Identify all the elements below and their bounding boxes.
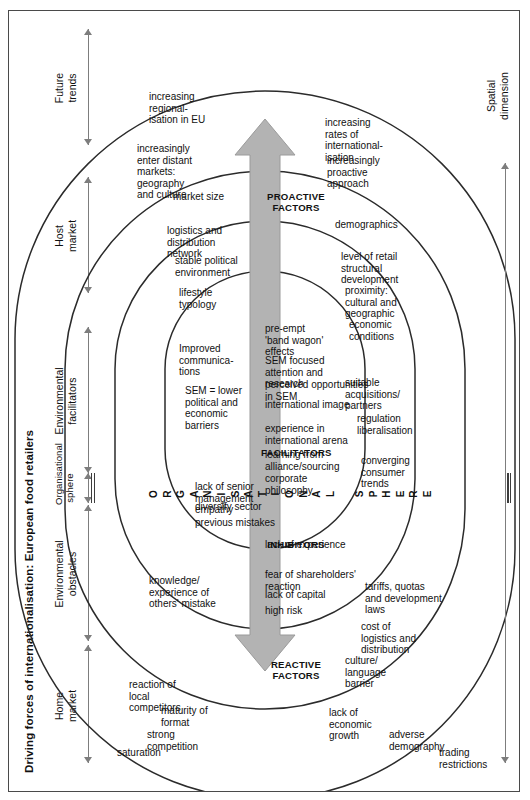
ring-item: corporate philosophy (265, 473, 355, 496)
ring-item: logistics and distribution network (167, 225, 267, 260)
ring-item: suitable acquisitions/ partners (345, 377, 449, 412)
figure-frame: Driving forces of internationalisation: … (8, 10, 520, 792)
spatial-dimension-label: Spatial dimension (485, 41, 510, 151)
rotated-stage: Driving forces of internationalisation: … (0, 0, 530, 800)
ring-item: reaction of local competitors (129, 679, 219, 714)
ring-item: demographics (335, 219, 435, 231)
ring-item: knowledge/ experience of others' mistake (149, 575, 255, 610)
ring-item: SEM = lower political and economic barri… (185, 385, 289, 431)
ring-item: increasingly enter distant markets: geog… (137, 143, 253, 201)
ring-item: increasing regional- isation in EU (149, 91, 255, 126)
ring-item: proximity: cultural and geographic (345, 285, 445, 320)
ring-item: previous mistakes (195, 517, 295, 529)
zone-label-reactive-factors: REACTIVE FACTORS (261, 659, 331, 681)
spatial-dimension-rule (501, 163, 510, 763)
ring-item: converging consumer trends (361, 455, 461, 490)
ring-item: learning from alliance/sourcing (265, 449, 375, 472)
ring-item: increasing rates of international- isati… (325, 117, 437, 163)
ring-item: regulation liberalisation (357, 413, 457, 436)
ring-item: strong competition (147, 729, 237, 752)
ring-item: cost of logistics and distribution (361, 621, 461, 656)
ring-item: lack of economic growth (329, 707, 419, 742)
ring-item: culture/ language barrier (345, 655, 435, 690)
ring-item: Improved communica- tions (179, 343, 279, 378)
ring-item: level of retail structural development (341, 251, 441, 286)
ring-item: fear of shareholders' reaction (265, 569, 385, 592)
ring-item: economic conditions (349, 319, 441, 342)
ring-item: lifestyle typology (179, 287, 275, 310)
ring-item: lack of experience (265, 539, 375, 551)
figure-canvas: Driving forces of internationalisation: … (0, 0, 530, 800)
ring-item: high risk (265, 605, 339, 617)
